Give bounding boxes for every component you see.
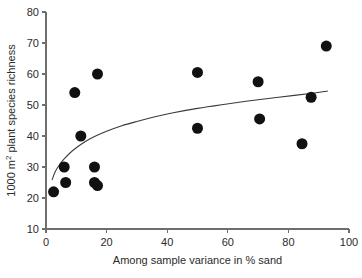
data-point <box>254 113 265 124</box>
data-point <box>92 180 103 191</box>
axes-group <box>46 12 349 229</box>
data-point <box>306 92 317 103</box>
data-point <box>69 87 80 98</box>
scatter-plot: 1020304050607080020406080100 Among sampl… <box>0 0 362 278</box>
x-tick-label-20: 20 <box>100 236 112 248</box>
x-tick-label-100: 100 <box>340 236 358 248</box>
chart-figure: 1020304050607080020406080100 Among sampl… <box>0 0 362 278</box>
data-point <box>321 41 332 52</box>
y-tick-label-50: 50 <box>27 99 39 111</box>
y-tick-label-60: 60 <box>27 68 39 80</box>
y-tick-label-70: 70 <box>27 37 39 49</box>
data-point <box>89 162 100 173</box>
data-point <box>75 131 86 142</box>
data-point <box>92 69 103 80</box>
data-point <box>253 76 264 87</box>
data-point <box>59 162 70 173</box>
y-axis-title-prefix: 1000 m <box>5 160 17 197</box>
y-axis-title: 1000 m2 plant species richness <box>4 44 17 197</box>
x-tick-label-40: 40 <box>161 236 173 248</box>
data-point <box>192 67 203 78</box>
y-tick-label-30: 30 <box>27 161 39 173</box>
y-tick-label-20: 20 <box>27 192 39 204</box>
x-axis-title: Among sample variance in % sand <box>113 254 282 266</box>
y-tick-label-40: 40 <box>27 130 39 142</box>
y-axis-title-suffix: plant species richness <box>5 44 17 156</box>
x-tick-label-60: 60 <box>222 236 234 248</box>
y-tick-label-80: 80 <box>27 6 39 18</box>
data-point <box>48 186 59 197</box>
x-tick-label-80: 80 <box>282 236 294 248</box>
data-point <box>192 123 203 134</box>
data-point <box>60 177 71 188</box>
data-point <box>297 138 308 149</box>
data-points-group <box>48 41 332 198</box>
x-tick-label-0: 0 <box>43 236 49 248</box>
y-tick-label-10: 10 <box>27 223 39 235</box>
tick-marks-group <box>42 12 349 233</box>
